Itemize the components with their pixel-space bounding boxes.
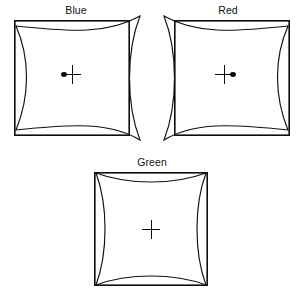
distortion-figure: Blue Red	[0, 0, 304, 303]
blue-distorted-outline	[16, 16, 140, 140]
red-offset-dot-marker	[230, 72, 236, 77]
red-distorted-outline	[164, 16, 288, 140]
panel-red-plot	[152, 0, 304, 152]
panel-green: Green	[76, 152, 228, 303]
panel-green-plot	[76, 152, 228, 303]
panel-red: Red	[152, 0, 304, 152]
blue-offset-dot-marker	[61, 72, 67, 77]
red-reference-rect	[175, 21, 289, 135]
green-center-cross-marker	[142, 220, 160, 239]
panel-blue-plot	[0, 0, 152, 152]
panel-blue: Blue	[0, 0, 152, 152]
